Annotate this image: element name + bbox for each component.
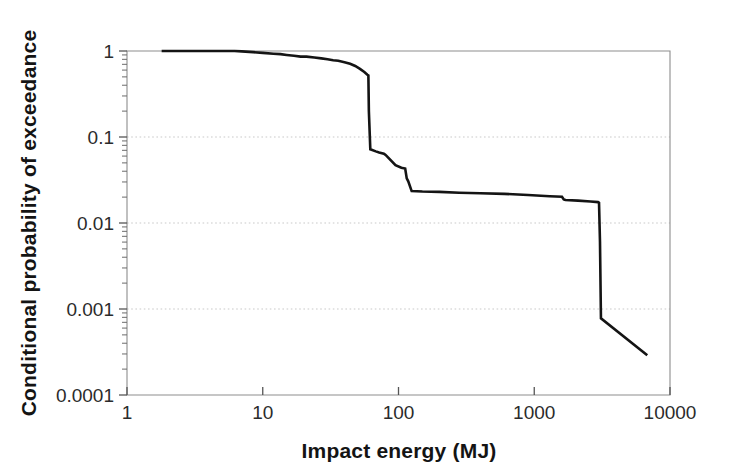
exceedance-log-log-chart: 10.10.010.0010.0001 110100100010000 Impa… [0, 0, 732, 473]
chart-figure: 10.10.010.0010.0001 110100100010000 Impa… [0, 0, 732, 473]
y-axis-title: Conditional probability of exceedance [17, 30, 40, 417]
y-tick-label: 0.01 [77, 213, 114, 234]
y-tick-label: 1 [103, 41, 114, 62]
x-axis-title: Impact energy (MJ) [302, 439, 497, 462]
x-tick-label: 10000 [644, 402, 697, 423]
y-tick-label: 0.1 [88, 127, 114, 148]
y-tick-label: 0.001 [66, 299, 114, 320]
y-tick-label: 0.0001 [56, 385, 114, 406]
x-tick-label: 100 [383, 402, 415, 423]
x-tick-label: 10 [252, 402, 273, 423]
x-tick-label: 1000 [513, 402, 555, 423]
x-tick-label: 1 [122, 402, 133, 423]
